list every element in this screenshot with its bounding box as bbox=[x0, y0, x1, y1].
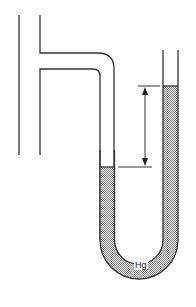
arrow-down-icon bbox=[142, 158, 148, 166]
arrow-up-icon bbox=[142, 87, 148, 95]
manometer-diagram bbox=[0, 0, 196, 307]
mercury-column bbox=[100, 86, 178, 279]
mercury-label: Hg bbox=[134, 260, 148, 270]
tube-lower-wall bbox=[40, 69, 100, 240]
u-tube-inner-wall bbox=[115, 50, 164, 264]
